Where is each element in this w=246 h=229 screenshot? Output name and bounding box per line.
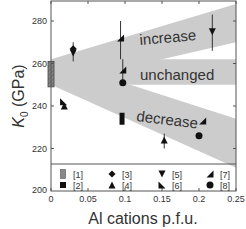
data-point-6 bbox=[60, 98, 67, 105]
legend-label: [1] bbox=[73, 170, 83, 180]
chart-svg: increaseunchangeddecrease 00.050.10.150.… bbox=[0, 0, 246, 229]
x-tick-label: 0.15 bbox=[153, 194, 171, 204]
legend: [1][2][3][4][5][6][7][8] bbox=[60, 170, 230, 191]
y-tick-label: 240 bbox=[32, 101, 47, 111]
x-tick-label: 0.05 bbox=[79, 194, 97, 204]
data-point-8 bbox=[119, 79, 126, 86]
x-tick-label: 0 bbox=[48, 194, 53, 204]
legend-entry-4: [4] bbox=[109, 181, 133, 191]
legend-label: [8] bbox=[220, 181, 230, 191]
y-tick-label: 220 bbox=[32, 144, 47, 154]
legend-label: [3] bbox=[122, 170, 132, 180]
y-tick-label: 260 bbox=[32, 59, 47, 69]
legend-entry-5: [5] bbox=[159, 170, 183, 180]
legend-label: [2] bbox=[73, 181, 83, 191]
y-tick-label: 200 bbox=[32, 185, 47, 195]
chart-container: increaseunchangeddecrease 00.050.10.150.… bbox=[0, 0, 246, 229]
data-point-2 bbox=[120, 113, 125, 125]
data-point-8 bbox=[196, 132, 203, 139]
band-label-unchanged: unchanged bbox=[140, 66, 214, 83]
legend-entry-3: [3] bbox=[109, 170, 133, 180]
legend-entry-1: [1] bbox=[61, 170, 84, 180]
bands bbox=[51, 4, 236, 168]
legend-entry-2: [2] bbox=[60, 181, 83, 191]
x-tick-label: 0.25 bbox=[227, 194, 245, 204]
legend-entry-8: [8] bbox=[207, 181, 231, 191]
legend-entry-7: [7] bbox=[207, 170, 231, 180]
x-tick-label: 0.2 bbox=[193, 194, 206, 204]
y-tick-label: 280 bbox=[32, 16, 47, 26]
x-tick-label: 0.1 bbox=[119, 194, 132, 204]
legend-label: [4] bbox=[122, 181, 132, 191]
svg-text:K0 (GPa): K0 (GPa) bbox=[10, 64, 30, 127]
legend-label: [7] bbox=[220, 170, 230, 180]
y-axis-label: K0 (GPa) bbox=[10, 64, 30, 127]
legend-label: [6] bbox=[172, 181, 182, 191]
legend-label: [5] bbox=[172, 170, 182, 180]
x-axis-label: Al cations p.f.u. bbox=[88, 210, 197, 227]
